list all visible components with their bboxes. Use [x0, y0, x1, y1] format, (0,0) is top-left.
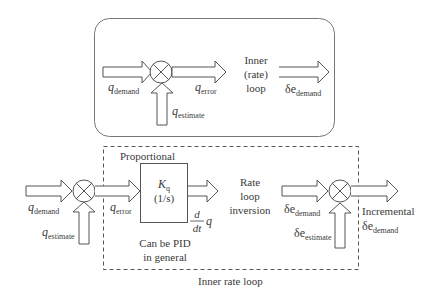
bottom-feedback-label: qestimate	[42, 226, 75, 241]
top-estimate-arrow	[151, 83, 173, 125]
note-line-1: Can be PID	[125, 236, 205, 250]
top-error-subscript: error	[201, 87, 217, 96]
final-output-symbol: δe	[362, 219, 373, 233]
second-feedback-symbol: δe	[294, 226, 305, 240]
inversion-line-1: Rate	[225, 175, 275, 189]
bottom-error-subscript: error	[116, 207, 132, 216]
bottom-feedback-subscript: estimate	[48, 232, 75, 241]
inversion-line-2: loop	[225, 189, 275, 203]
rate-loop-inversion-label: Rate loop inversion	[225, 175, 275, 217]
top-output-label: δedemand	[285, 83, 321, 98]
final-output-subscript: demand	[373, 226, 398, 235]
final-output-arrow	[351, 180, 398, 202]
top-feedback-label: qestimate	[172, 105, 205, 120]
controller-type-label: Proportional	[120, 151, 175, 162]
top-sum-junction	[150, 61, 172, 83]
block-diagram-graphics	[0, 0, 434, 299]
bottom-input-arrow	[26, 180, 72, 202]
top-output-arrow	[279, 61, 329, 83]
gain-symbol: K	[158, 177, 166, 191]
inversion-output-label: δedemand	[284, 203, 320, 218]
derivative-numerator: d	[190, 209, 204, 220]
inversion-output-symbol: δe	[284, 202, 295, 216]
bottom-input-subscript: demand	[34, 207, 59, 216]
top-output-symbol: δe	[285, 82, 296, 96]
inner-rate-loop-caption: Inner rate loop	[198, 276, 263, 287]
note-line-2: in general	[125, 250, 205, 264]
inversion-line-3: inversion	[225, 203, 275, 217]
controller-note: Can be PID in general	[125, 236, 205, 264]
derivative-symbol: q	[206, 215, 212, 227]
bottom-error-label: qerror	[110, 201, 132, 216]
second-feedback-label: δeestimate	[294, 227, 332, 242]
inversion-output-arrow	[282, 180, 328, 202]
inner-rate-loop-title: Inner (rate) loop	[236, 53, 276, 95]
title-line-3: loop	[236, 81, 276, 95]
controller-units-label: (1/s)	[141, 193, 187, 204]
controller-output-arrow	[188, 180, 218, 202]
bottom-estimate-arrow-1	[73, 202, 95, 244]
top-input-label: qdemand	[108, 81, 139, 96]
top-output-subscript: demand	[296, 89, 321, 98]
bottom-input-label: qdemand	[28, 201, 59, 216]
title-line-1: Inner	[236, 53, 276, 67]
top-error-label: qerror	[195, 81, 217, 96]
bottom-estimate-arrow-2	[329, 203, 351, 248]
title-line-2: (rate)	[236, 67, 276, 81]
controller-gain-label: Kq	[141, 178, 187, 193]
bottom-sum-junction-2	[329, 180, 351, 202]
top-feedback-subscript: estimate	[178, 111, 205, 120]
final-output-prefix: Incremental	[362, 206, 415, 217]
second-feedback-subscript: estimate	[305, 233, 332, 242]
derivative-denominator: dt	[189, 223, 205, 234]
final-output-label: δedemand	[362, 220, 398, 235]
bottom-error-arrow	[95, 180, 140, 202]
top-input-subscript: demand	[114, 87, 139, 96]
inversion-output-subscript: demand	[295, 209, 320, 218]
bottom-sum-junction-1	[73, 180, 95, 202]
